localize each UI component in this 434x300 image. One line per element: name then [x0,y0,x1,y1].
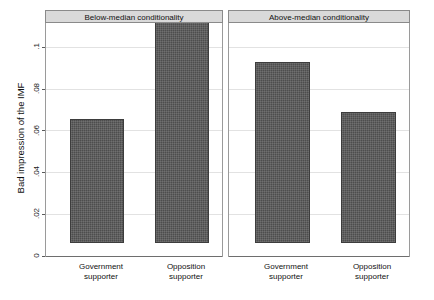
x-tick-line2: supporter [269,272,303,281]
x-tick-line2: supporter [169,272,203,281]
panel-plot-above-median [228,23,410,257]
y-tick-label-3: .04 [32,161,41,183]
x-tick-line1: Opposition [167,262,205,271]
bar-below-median-opposition[interactable] [155,23,209,243]
x-tick-above-median-opposition: Oppositionsupporter [310,262,434,281]
panel-plot-below-median [45,23,223,257]
y-tick-label-4: .02 [32,203,41,225]
x-tick-line2: supporter [84,272,118,281]
panel-header-below-median: Below-median conditionality [45,10,223,23]
panel-below-median: Below-median conditionality [45,10,223,257]
x-tick-line2: supporter [355,272,389,281]
x-tick-line1: Government [264,262,308,271]
x-axis-baseline-right [229,256,409,257]
bar-below-median-government[interactable] [70,119,124,243]
panel-above-median: Above-median conditionality [228,10,410,257]
bar-chart-figure: Bad impression of the IMF .1 .08 .06 .04… [0,0,434,300]
x-axis-baseline-left [46,256,222,257]
y-axis-title: Bad impression of the IMF [14,8,28,268]
gridline-0.1 [229,47,409,48]
bar-above-median-government[interactable] [255,62,310,243]
y-tick-label-2: .06 [32,120,41,142]
bar-above-median-opposition[interactable] [341,112,396,243]
panel-header-above-median: Above-median conditionality [228,10,410,23]
y-tick-label-0: .1 [32,36,41,58]
x-tick-line1: Government [79,262,123,271]
x-tick-line1: Opposition [353,262,391,271]
y-tick-label-1: .08 [32,78,41,100]
